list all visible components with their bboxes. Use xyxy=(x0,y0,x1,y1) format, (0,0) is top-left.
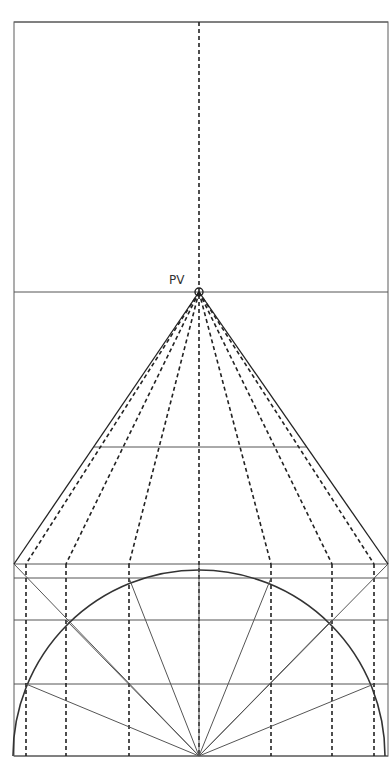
radial-line xyxy=(26,684,199,756)
dashed-projection xyxy=(199,292,374,564)
vanishing-point-label: PV xyxy=(169,273,184,287)
dashed-projection xyxy=(66,292,199,564)
diagonal-line-left xyxy=(14,564,199,756)
radial-line xyxy=(199,578,271,756)
diagram-canvas xyxy=(0,0,389,780)
dashed-projection xyxy=(129,292,199,564)
dashed-projection xyxy=(199,292,271,564)
diagonal-line-right xyxy=(199,564,388,756)
dashed-projection xyxy=(26,292,199,564)
cone-edge-left xyxy=(14,292,199,564)
perspective-construction-diagram: PV xyxy=(0,0,389,780)
radial-line xyxy=(129,578,199,756)
dashed-projection xyxy=(199,292,332,564)
radial-line xyxy=(199,684,374,756)
cone-edge-right xyxy=(199,292,388,564)
frame-border xyxy=(14,22,388,756)
